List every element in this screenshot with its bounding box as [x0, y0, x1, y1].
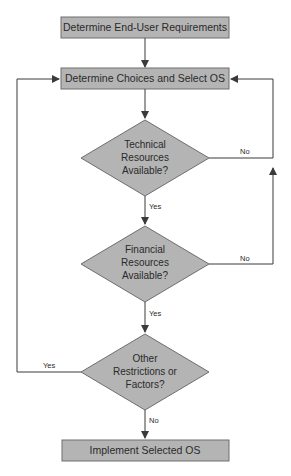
svg-text:Available?: Available? [122, 270, 168, 281]
edge-other-yes [17, 79, 81, 372]
label-financial-no: No [240, 254, 250, 263]
svg-text:Resources: Resources [121, 152, 169, 163]
svg-text:Determine End-User Requirement: Determine End-User Requirements [63, 21, 227, 33]
svg-text:Technical: Technical [124, 139, 166, 150]
label-other-no: No [149, 416, 159, 425]
node-implement-os: Implement Selected OS [62, 440, 229, 461]
label-technical-yes: Yes [149, 202, 161, 211]
svg-text:Financial: Financial [125, 244, 165, 255]
svg-text:Determine Choices and Select O: Determine Choices and Select OS [65, 72, 225, 84]
label-financial-yes: Yes [149, 309, 161, 318]
svg-text:Implement Selected OS: Implement Selected OS [90, 444, 201, 456]
edge-financial-no [209, 168, 273, 264]
svg-text:Restrictions or: Restrictions or [113, 366, 178, 377]
label-other-yes: Yes [43, 361, 55, 370]
label-technical-no: No [240, 147, 250, 156]
decision-other-restrictions: Other Restrictions or Factors? [81, 334, 209, 410]
flowchart: Determine End-User Requirements Determin… [0, 0, 291, 476]
node-select-os: Determine Choices and Select OS [61, 68, 229, 89]
node-determine-requirements: Determine End-User Requirements [61, 17, 229, 38]
svg-text:Factors?: Factors? [126, 379, 165, 390]
decision-technical-resources: Technical Resources Available? [81, 120, 209, 196]
svg-text:Available?: Available? [122, 165, 168, 176]
decision-financial-resources: Financial Resources Available? [81, 226, 209, 302]
svg-text:Other: Other [132, 353, 158, 364]
svg-text:Resources: Resources [121, 257, 169, 268]
